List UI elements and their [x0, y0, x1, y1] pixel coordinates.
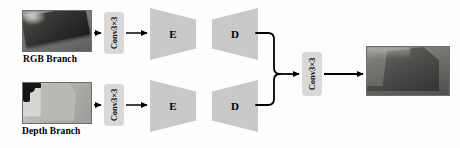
- depth-decoder-label: D: [231, 100, 239, 112]
- rgb-decoder-label: D: [231, 28, 239, 40]
- fusion-conv3x3-label: Conv3×3: [307, 58, 317, 91]
- depth-encoder-block: E: [150, 80, 196, 132]
- figure-canvas: RGB Branch Conv3×3 E D Depth Branch Conv…: [0, 0, 460, 148]
- rgb-conv3x3-block: Conv3×3: [104, 12, 124, 54]
- fusion-conv3x3-block: Conv3×3: [302, 52, 322, 96]
- depth-input-image: [22, 82, 92, 124]
- rgb-conv3x3-label: Conv3×3: [109, 17, 119, 50]
- output-image: [366, 46, 450, 96]
- depth-conv3x3-block: Conv3×3: [104, 84, 124, 126]
- depth-branch-caption: Depth Branch: [22, 126, 80, 136]
- output-image-highlight: [367, 47, 410, 59]
- rgb-encoder-block: E: [150, 8, 196, 60]
- rgb-encoder-label: E: [169, 28, 176, 40]
- connector-rgb-decoder-to-fusion: [256, 33, 280, 74]
- depth-image-bar-3: [23, 83, 30, 95]
- rgb-image-highlight: [23, 11, 46, 25]
- rgb-input-image: [22, 10, 92, 52]
- connector-depth-decoder-to-fusion: [256, 74, 280, 105]
- depth-encoder-label: E: [169, 100, 176, 112]
- depth-decoder-block: D: [212, 80, 258, 132]
- rgb-branch-caption: RGB Branch: [23, 54, 77, 64]
- rgb-decoder-block: D: [212, 8, 258, 60]
- depth-conv3x3-label: Conv3×3: [109, 89, 119, 122]
